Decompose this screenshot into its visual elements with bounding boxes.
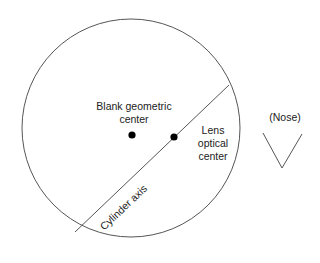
blank-center-label-line1: Blank geometric — [93, 100, 175, 113]
nose-icon — [263, 133, 302, 168]
optical-center-label: Lens optical center — [193, 124, 233, 163]
blank-center-label-line2: center — [93, 113, 175, 126]
optical-center-label-line3: center — [193, 150, 233, 163]
blank-geometric-center-dot — [128, 131, 135, 138]
optical-center-label-line1: Lens — [193, 124, 233, 137]
lens-diagram: Cylinder axis — [0, 0, 320, 263]
cylinder-axis-label: Cylinder axis — [97, 182, 149, 232]
lens-optical-center-dot — [170, 133, 177, 140]
nose-label: (Nose) — [265, 111, 305, 124]
blank-center-label: Blank geometric center — [93, 100, 175, 126]
optical-center-label-line2: optical — [193, 137, 233, 150]
